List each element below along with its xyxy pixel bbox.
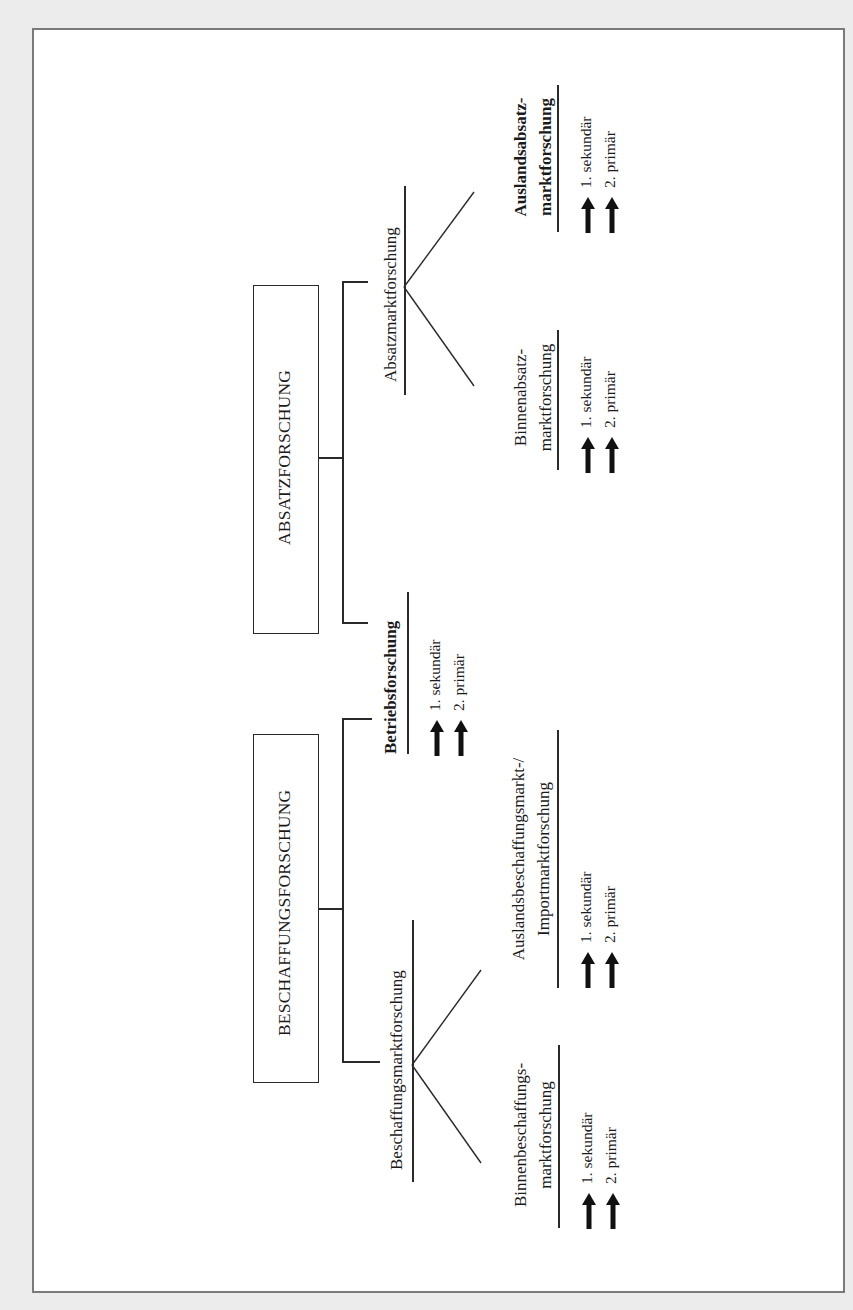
binnenbeschaffung-step-1: 1. sekundär xyxy=(579,1113,595,1184)
beschaffung-connector xyxy=(318,908,343,910)
auslandsbeschaffung-underline xyxy=(557,730,559,988)
up-arrow-icon xyxy=(581,952,595,992)
beschaffung-bracket-arm-bottom xyxy=(342,1061,380,1063)
auslandsabsatz-step-2: 2. primär xyxy=(602,131,618,188)
binnenabsatz-label-line2: marktforschung xyxy=(537,325,554,470)
auslandsbeschaffung-label-line1: Auslandsbeschaffungsmarkt-/ xyxy=(510,728,527,990)
beschaffungsmarktforschung-underline xyxy=(412,920,414,1182)
up-arrow-icon xyxy=(605,437,619,477)
binnenbeschaffung-step-2: 2. primär xyxy=(603,1127,619,1184)
up-arrow-icon xyxy=(581,437,595,477)
beschaffungsmarktforschung-label: Beschaffungsmarktforschung xyxy=(388,970,405,1170)
beschaffung-bracket xyxy=(342,718,344,1062)
binnenbeschaffung-label-line2: marktforschung xyxy=(537,1042,554,1228)
binnenbeschaffung-underline xyxy=(558,1045,560,1228)
up-arrow-icon xyxy=(430,720,444,760)
up-arrow-icon xyxy=(454,720,468,760)
auslandsabsatz-label-line1: Auslandsabsatz- xyxy=(512,82,529,232)
auslandsbeschaffung-step-1: 1. sekundär xyxy=(578,872,594,943)
up-arrow-icon xyxy=(605,197,619,237)
up-arrow-icon xyxy=(582,1193,596,1233)
binnenabsatz-step-1: 1. sekundär xyxy=(578,357,594,428)
binnenabsatz-step-2: 2. primär xyxy=(602,371,618,428)
betriebsforschung-underline xyxy=(407,592,409,754)
binnenabsatz-underline xyxy=(557,330,559,470)
betriebsforschung-step-1: 1. sekundär xyxy=(427,640,443,711)
betriebsforschung-step-2: 2. primär xyxy=(451,654,467,711)
auslandsbeschaffung-label-line2: Importmarktforschung xyxy=(535,728,552,990)
auslandsabsatz-label-line2: marktforschung xyxy=(537,82,554,232)
auslandsbeschaffung-step-2: 2. primär xyxy=(602,886,618,943)
beschaffungsforschung-label: BESCHAFFUNGSFORSCHUNG xyxy=(276,790,294,1036)
binnenbeschaffung-label-line1: Binnenbeschaffungs- xyxy=(512,1042,529,1228)
betriebsforschung-label: Betriebsforschung xyxy=(382,621,399,754)
beschaffung-bracket-arm-top xyxy=(342,718,372,720)
auslandsabsatz-underline xyxy=(557,85,559,232)
up-arrow-icon xyxy=(606,1193,620,1233)
auslandsabsatz-step-1: 1. sekundär xyxy=(578,117,594,188)
binnenabsatz-label-line1: Binnenabsatz- xyxy=(512,325,529,470)
up-arrow-icon xyxy=(605,952,619,992)
up-arrow-icon xyxy=(581,197,595,237)
